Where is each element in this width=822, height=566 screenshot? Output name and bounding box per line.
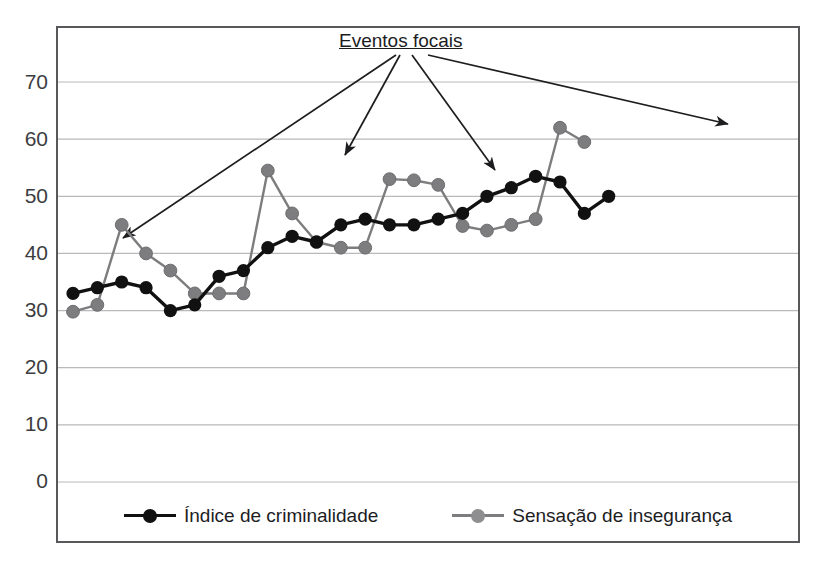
legend-marker-crime bbox=[143, 509, 157, 523]
legend-item-crime: Índice de criminalidade bbox=[124, 505, 378, 527]
legend-swatch-insecurity bbox=[452, 509, 504, 523]
y-axis-tick-60: 60 bbox=[4, 128, 48, 149]
legend-item-insecurity: Sensação de insegurança bbox=[452, 505, 732, 527]
legend-label-insecurity: Sensação de insegurança bbox=[512, 505, 732, 527]
y-axis-tick-50: 50 bbox=[4, 185, 48, 206]
y-axis-tick-10: 10 bbox=[4, 413, 48, 434]
y-axis-tick-70: 70 bbox=[4, 71, 48, 92]
y-axis-tick-40: 40 bbox=[4, 242, 48, 263]
plot-area-frame bbox=[56, 26, 800, 543]
line-chart: 70 60 50 40 30 20 10 0 Eventos focais Ín… bbox=[0, 0, 822, 566]
annotation-label-eventos-focais: Eventos focais bbox=[339, 30, 463, 52]
y-axis-tick-30: 30 bbox=[4, 299, 48, 320]
legend-swatch-crime bbox=[124, 509, 176, 523]
legend-marker-insecurity bbox=[471, 509, 485, 523]
y-axis-tick-20: 20 bbox=[4, 356, 48, 377]
legend-label-crime: Índice de criminalidade bbox=[184, 505, 378, 527]
chart-legend: Índice de criminalidade Sensação de inse… bbox=[56, 505, 800, 527]
y-axis-tick-0: 0 bbox=[4, 470, 48, 491]
